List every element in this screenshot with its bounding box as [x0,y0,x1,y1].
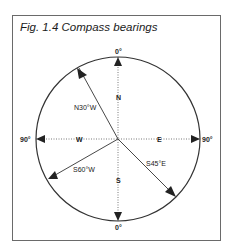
bearing-label-s60w: S60°W [73,166,95,173]
angle-label-left: 90° [20,136,31,143]
angle-label-top: 0° [115,48,122,55]
angle-label-bottom: 0° [115,224,122,231]
bearing-arrowhead-n30w-icon [77,68,87,79]
cardinal-label-west: W [76,136,83,143]
bearing-arrowhead-s60w-icon [48,171,58,179]
south-arrowhead-icon [114,212,122,221]
compass-diagram: 0° 0° 90° 90° N S W E N30°W S45°E S60°W [0,0,233,252]
north-arrowhead-icon [114,57,122,66]
bearing-line-s45e [118,139,174,195]
bearing-label-s45e: S45°E [146,160,166,167]
cardinal-label-north: N [116,94,121,101]
bearing-label-n30w: N30°W [74,104,97,111]
cardinal-label-east: E [157,136,162,143]
east-arrowhead-icon [191,135,200,143]
angle-label-right: 90° [202,136,213,143]
west-arrowhead-icon [36,135,45,143]
cardinal-label-south: S [116,177,121,184]
